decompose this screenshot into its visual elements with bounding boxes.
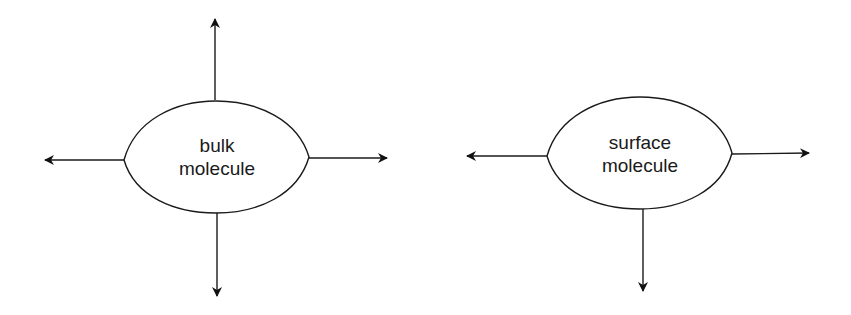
bulk-molecule-label: bulk molecule: [124, 134, 310, 180]
surface-arrow-right-icon: [732, 153, 809, 154]
surface-molecule-group: [467, 97, 809, 291]
surface-label-line-2: molecule: [547, 154, 733, 177]
surface-molecule-label: surface molecule: [547, 131, 733, 177]
bulk-label-line-1: bulk: [124, 134, 310, 157]
surface-label-line-1: surface: [547, 131, 733, 154]
bulk-label-line-2: molecule: [124, 157, 310, 180]
